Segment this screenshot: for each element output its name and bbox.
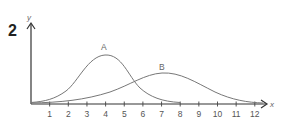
- x-tick-label: 3: [85, 109, 90, 119]
- x-tick-label: 10: [213, 109, 223, 119]
- x-tick-label: 9: [196, 109, 201, 119]
- x-tick-label: 11: [232, 109, 241, 119]
- x-tick-label: 4: [103, 109, 108, 119]
- x-tick-label: 2: [66, 109, 71, 119]
- x-tick-label: 7: [159, 109, 164, 119]
- curve-b: [31, 73, 263, 103]
- x-axis-label: x: [269, 100, 275, 109]
- x-tick-label: 8: [178, 109, 183, 119]
- curve-b-label: B: [159, 62, 165, 72]
- y-axis-label: y: [26, 13, 32, 22]
- x-tick-label: 12: [250, 109, 260, 119]
- x-tick-label: 1: [47, 109, 52, 119]
- x-tick-label: 6: [141, 109, 146, 119]
- x-tick-label: 5: [122, 109, 127, 119]
- curve-a-label: A: [101, 42, 107, 52]
- chart: y x 123456789101112 A B: [0, 0, 282, 121]
- curve-a: [31, 55, 180, 103]
